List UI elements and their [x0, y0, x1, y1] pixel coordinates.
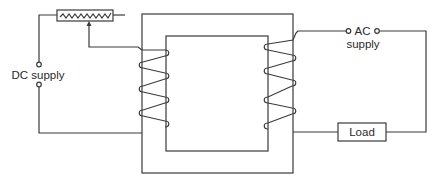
secondary-coil: [264, 33, 296, 129]
dc-top-wire: [39, 15, 57, 62]
dc-bottom-wire: [39, 87, 142, 133]
ac-right-wire: [379, 31, 426, 132]
rheostat: [57, 10, 125, 26]
transformer-diagram: DC supply AC supply Load: [0, 0, 440, 182]
rheostat-zigzag: [60, 13, 111, 18]
core-window: [166, 36, 268, 151]
ac-label: AC: [355, 25, 371, 37]
ac-terminal-left: [346, 29, 351, 34]
wiper-wire: [89, 26, 142, 50]
wiper-arrow-icon: [87, 21, 92, 26]
core-outer: [142, 14, 293, 173]
dc-terminal-negative: [37, 82, 42, 87]
dc-supply-label: DC supply: [11, 69, 64, 81]
ac-supply-label: supply: [346, 38, 379, 50]
transformer-core: [142, 14, 293, 173]
primary-coil: [139, 50, 169, 127]
ac-left-wire: [296, 31, 346, 33]
load-label: Load: [349, 126, 375, 138]
dc-terminal-positive: [37, 62, 42, 67]
ac-terminal-right: [375, 29, 380, 34]
